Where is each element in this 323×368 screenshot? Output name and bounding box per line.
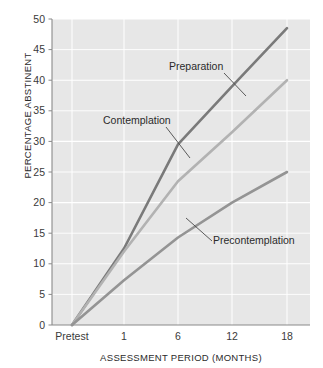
y-tick-label-30: 30 xyxy=(19,136,45,147)
y-tick-label-20: 20 xyxy=(19,197,45,208)
y-tick-label-40: 40 xyxy=(19,75,45,86)
chart-figure xyxy=(0,0,323,368)
y-tick-label-50: 50 xyxy=(19,14,45,25)
series-label-preparation: Preparation xyxy=(169,60,223,72)
y-tick-label-0: 0 xyxy=(19,320,45,331)
y-tick-label-15: 15 xyxy=(19,228,45,239)
x-tick-label-18: 18 xyxy=(247,331,323,342)
y-tick-label-35: 35 xyxy=(19,105,45,116)
y-tick-label-25: 25 xyxy=(19,167,45,178)
y-tick-label-10: 10 xyxy=(19,258,45,269)
series-label-contemplation: Contemplation xyxy=(103,114,171,126)
y-tick-label-5: 5 xyxy=(19,289,45,300)
x-axis-title: ASSESSMENT PERIOD (MONTHS) xyxy=(52,352,310,363)
y-tick-label-45: 45 xyxy=(19,44,45,55)
series-label-precontemplation: Precontemplation xyxy=(213,234,295,246)
